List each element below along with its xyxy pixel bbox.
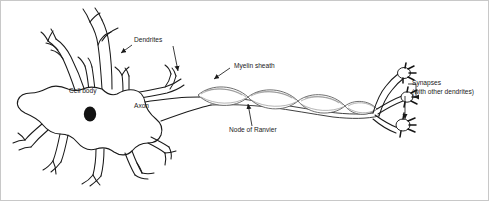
nucleus — [84, 106, 96, 121]
dendrites-leader-left — [121, 45, 132, 53]
label-dendrites: Dendrites — [134, 36, 163, 43]
label-axon: Axon — [134, 102, 149, 109]
myelin-segment — [345, 101, 377, 114]
label-myelin-sheath: Myelin sheath — [234, 62, 275, 70]
neuron-diagram-canvas: Dendrites Cell body Axon Myelin sheath N… — [0, 0, 489, 201]
dendrite-branches-upper — [41, 8, 184, 99]
dendrites-leader-right — [173, 46, 178, 71]
myelin-sheath-leader — [214, 68, 230, 79]
axon-terminal-branches — [373, 63, 418, 137]
myelin-segment — [198, 87, 248, 105]
node-of-ranvier-leader — [248, 104, 252, 126]
myelin-segment — [298, 95, 345, 113]
myelin-sheath — [198, 87, 377, 114]
annotation-leaders — [121, 45, 416, 126]
label-synapses-sublabel: (with other dendrites) — [412, 88, 474, 96]
label-cell-body: Cell body — [69, 87, 97, 95]
synapse-terminal — [396, 113, 416, 137]
label-synapses: Synapses — [412, 79, 442, 87]
label-node-of-ranvier: Node of Ranvier — [229, 126, 277, 133]
cell-body-soma — [17, 86, 161, 155]
